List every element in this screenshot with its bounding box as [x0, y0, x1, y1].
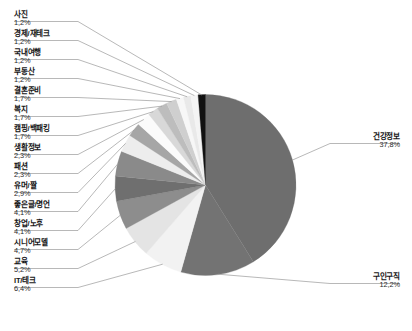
leader-line — [14, 106, 162, 116]
pie-label-좋은글-명언: 좋은글/명언4,1% — [14, 201, 50, 217]
pie-label-percent: 4,7% — [14, 247, 48, 255]
pie-label-percent: 4,1% — [14, 209, 50, 217]
pie-label-percent: 2,3% — [14, 152, 41, 160]
pie-label-캠핑-백패킹: 캠핑/백패킹1,7% — [14, 125, 50, 141]
pie-label-percent: 1,2% — [14, 76, 34, 84]
pie-label-복지: 복지1,7% — [14, 106, 30, 122]
pie-label-percent: 1,2% — [14, 57, 41, 65]
pie-label-percent: 1,7% — [14, 133, 50, 141]
pie-label-시니어모델: 시니어모델4,7% — [14, 239, 48, 255]
pie-label-percent: 1,7% — [14, 114, 30, 122]
pie-label-percent: 12,2% — [340, 281, 400, 289]
pie-label-percent: 1,7% — [14, 95, 41, 103]
pie-label-percent: 6,4% — [14, 285, 36, 293]
pie-label-결혼준비: 결혼준비1,7% — [14, 87, 41, 103]
pie-chart-container: 사진1,2%경제/재테크1,2%국내여행1,2%부동산1,2%결혼준비1,7%복… — [0, 0, 412, 331]
pie-label-사진: 사진1,2% — [14, 11, 30, 27]
pie-label-경제-재테크: 경제/재테크1,2% — [14, 30, 50, 46]
pie-label-percent: 1,2% — [14, 19, 30, 27]
pie-label-percent: 2,3% — [14, 171, 30, 179]
pie-label-percent: 37,8% — [340, 141, 400, 149]
pie-label-창업-노후: 창업/노후4,1% — [14, 220, 43, 236]
leader-line — [14, 264, 163, 287]
pie-slice-group — [115, 94, 296, 275]
pie-label-percent: 1,2% — [14, 38, 50, 46]
pie-label-부동산: 부동산1,2% — [14, 68, 34, 84]
pie-label-percent: 2,9% — [14, 190, 36, 198]
pie-label-구인구직: 구인구직12,2% — [340, 273, 400, 289]
pie-label-유머-짤: 유머/짤2,9% — [14, 182, 36, 198]
pie-label-생활정보: 생활정보2,3% — [14, 144, 41, 160]
pie-label-건강정보: 건강정보37,8% — [340, 133, 400, 149]
pie-label-국내여행: 국내여행1,2% — [14, 49, 41, 65]
pie-label-패션: 패션2,3% — [14, 163, 30, 179]
pie-label-교육: 교육5,2% — [14, 258, 30, 274]
pie-label-percent: 5,2% — [14, 266, 30, 274]
pie-label-percent: 4,1% — [14, 228, 43, 236]
pie-label-IT-테크: IT/테크6,4% — [14, 277, 36, 293]
